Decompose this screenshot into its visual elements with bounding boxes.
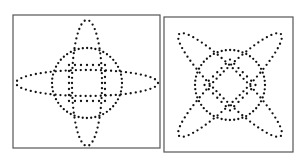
left-panel-dot-pattern — [16, 20, 159, 147]
right-panel-dot-pattern — [177, 32, 283, 138]
diagram-figure — [0, 0, 301, 166]
left-panel-frame — [13, 15, 160, 148]
right-panel-frame — [164, 17, 293, 152]
